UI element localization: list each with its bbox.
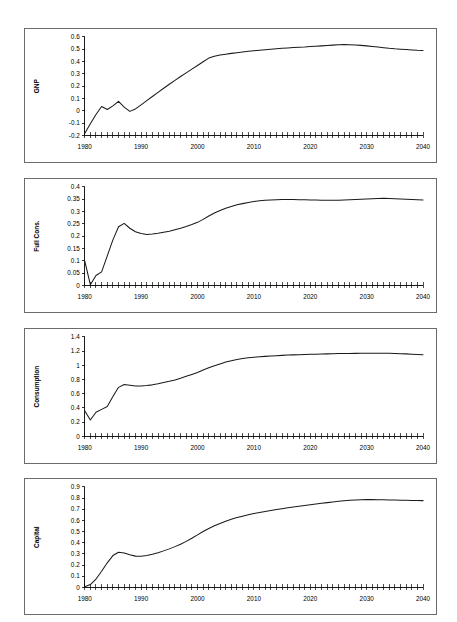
chart-svg-capital: 00.10.20.30.40.50.60.70.80.9198019902000… bbox=[25, 479, 436, 614]
y-tick-label: 0 bbox=[76, 107, 80, 114]
y-tick-label: 0.4 bbox=[71, 58, 80, 65]
x-tick-label: 2020 bbox=[303, 293, 318, 300]
chart-panel-gnp: -0.2-0.100.10.20.30.40.50.61980199020002… bbox=[24, 28, 437, 163]
chart-panel-consumption: 00.20.40.60.811.21.419801990200020102020… bbox=[24, 328, 437, 464]
y-tick-label: 0.3 bbox=[71, 208, 80, 215]
y-tick-label: 0.4 bbox=[71, 539, 80, 546]
y-axis-title: Capital bbox=[33, 526, 41, 548]
x-tick-label: 2010 bbox=[247, 444, 262, 451]
data-series-line bbox=[85, 500, 423, 587]
y-tick-label: 1.4 bbox=[71, 333, 80, 340]
y-tick-label: 0.4 bbox=[71, 404, 80, 411]
y-tick-label: 0.15 bbox=[67, 245, 80, 252]
y-tick-label: 0.3 bbox=[71, 70, 80, 77]
y-tick-label: 1.2 bbox=[71, 347, 80, 354]
y-tick-label: 0 bbox=[76, 584, 80, 591]
y-tick-label: 0.8 bbox=[71, 376, 80, 383]
y-tick-label: 0.2 bbox=[71, 561, 80, 568]
y-tick-label: 0.05 bbox=[67, 269, 80, 276]
y-tick-label: -0.1 bbox=[69, 119, 80, 126]
x-tick-label: 2000 bbox=[190, 595, 205, 602]
x-tick-label: 2030 bbox=[360, 143, 375, 150]
y-tick-label: 0.35 bbox=[67, 195, 80, 202]
y-tick-label: 0.8 bbox=[71, 494, 80, 501]
x-tick-label: 2030 bbox=[360, 293, 375, 300]
x-tick-label: 2010 bbox=[247, 293, 262, 300]
x-tick-label: 1990 bbox=[134, 444, 149, 451]
data-series-line bbox=[85, 353, 423, 420]
y-tick-label: 0.5 bbox=[71, 528, 80, 535]
x-tick-label: 1980 bbox=[78, 595, 93, 602]
y-tick-label: 0.6 bbox=[71, 33, 80, 40]
x-tick-label: 2040 bbox=[416, 444, 431, 451]
y-tick-label: 0.2 bbox=[71, 418, 80, 425]
chart-svg-full-cons: 00.050.10.150.20.250.30.350.419801990200… bbox=[25, 179, 436, 312]
x-tick-label: 2040 bbox=[416, 143, 431, 150]
x-tick-label: 2010 bbox=[247, 595, 262, 602]
x-tick-label: 1980 bbox=[78, 444, 93, 451]
y-tick-label: 0.1 bbox=[71, 95, 80, 102]
x-tick-label: 1980 bbox=[78, 143, 93, 150]
x-tick-label: 2030 bbox=[360, 595, 375, 602]
chart-svg-gnp: -0.2-0.100.10.20.30.40.50.61980199020002… bbox=[25, 29, 436, 162]
y-axis-title: Consumption bbox=[33, 366, 41, 408]
x-tick-label: 2020 bbox=[303, 143, 318, 150]
y-tick-label: 0 bbox=[76, 282, 80, 289]
chart-panel-capital: 00.10.20.30.40.50.60.70.80.9198019902000… bbox=[24, 478, 437, 615]
x-tick-label: 1980 bbox=[78, 293, 93, 300]
x-tick-label: 1990 bbox=[134, 595, 149, 602]
x-tick-label: 2020 bbox=[303, 595, 318, 602]
x-tick-label: 2000 bbox=[190, 444, 205, 451]
chart-svg-consumption: 00.20.40.60.811.21.419801990200020102020… bbox=[25, 329, 436, 463]
data-series-line bbox=[85, 198, 423, 284]
y-tick-label: -0.2 bbox=[69, 132, 80, 139]
y-tick-label: 0.5 bbox=[71, 45, 80, 52]
y-tick-label: 0.2 bbox=[71, 82, 80, 89]
data-series-line bbox=[85, 45, 423, 134]
y-tick-label: 0.1 bbox=[71, 573, 80, 580]
y-tick-label: 0.4 bbox=[71, 183, 80, 190]
chart-panel-full-cons: 00.050.10.150.20.250.30.350.419801990200… bbox=[24, 178, 437, 313]
x-tick-label: 2030 bbox=[360, 444, 375, 451]
y-tick-label: 0.9 bbox=[71, 483, 80, 490]
y-axis-title: GNP bbox=[33, 78, 40, 93]
y-tick-label: 0.6 bbox=[71, 517, 80, 524]
y-axis-title: Full Cons. bbox=[33, 220, 40, 252]
y-tick-label: 0.1 bbox=[71, 257, 80, 264]
x-tick-label: 2000 bbox=[190, 293, 205, 300]
charts-stack: -0.2-0.100.10.20.30.40.50.61980199020002… bbox=[0, 0, 457, 622]
y-tick-label: 0.7 bbox=[71, 506, 80, 513]
x-tick-label: 2020 bbox=[303, 444, 318, 451]
y-tick-label: 0.2 bbox=[71, 232, 80, 239]
y-tick-label: 0 bbox=[76, 433, 80, 440]
y-tick-label: 0.25 bbox=[67, 220, 80, 227]
x-tick-label: 1990 bbox=[134, 293, 149, 300]
x-tick-label: 2040 bbox=[416, 595, 431, 602]
y-tick-label: 1 bbox=[76, 362, 80, 369]
x-tick-label: 2010 bbox=[247, 143, 262, 150]
x-tick-label: 2000 bbox=[190, 143, 205, 150]
y-tick-label: 0.3 bbox=[71, 550, 80, 557]
y-tick-label: 0.6 bbox=[71, 390, 80, 397]
x-tick-label: 1990 bbox=[134, 143, 149, 150]
x-tick-label: 2040 bbox=[416, 293, 431, 300]
